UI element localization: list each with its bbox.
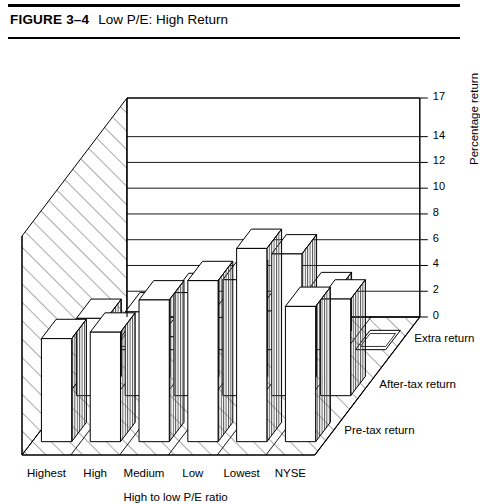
bar	[41, 319, 86, 441]
bar	[90, 313, 135, 442]
chart-scene	[22, 98, 428, 455]
figure-number: FIGURE 3–4	[10, 12, 89, 27]
y-axis-title: Percentage return	[468, 73, 480, 165]
bar	[237, 229, 282, 442]
series-label-extra-return: Extra return	[414, 332, 474, 344]
y-axis-tick-label: 14	[433, 129, 445, 141]
x-axis-title: High to low P/E ratio	[123, 491, 227, 503]
bar	[285, 287, 330, 442]
y-axis-tick-label: 0	[433, 309, 439, 321]
figure-title: Low P/E: High Return	[98, 12, 228, 27]
y-axis-tick-label: 6	[433, 232, 439, 244]
y-axis-tick-label: 2	[433, 283, 439, 295]
category-label-nyse: NYSE	[250, 467, 330, 479]
y-axis-tick-label: 17	[433, 90, 445, 102]
y-axis-tick-label: 10	[433, 180, 445, 192]
chart-plot-area: 0246810121417 Percentage return Pre-tax …	[0, 42, 470, 504]
figure-header: FIGURE 3–4Low P/E: High Return	[0, 0, 470, 42]
bar-face	[351, 280, 366, 396]
bar-face	[188, 281, 218, 442]
header-rule-top	[8, 4, 460, 7]
bar	[188, 261, 233, 441]
y-axis-tick-label: 12	[433, 154, 445, 166]
bar-face	[169, 281, 184, 442]
header-rule-bottom	[8, 37, 460, 39]
bar-face	[72, 319, 87, 441]
bar-face	[218, 261, 233, 441]
bar-face	[41, 339, 71, 442]
bar-face	[139, 300, 169, 442]
y-axis-tick-label: 8	[433, 206, 439, 218]
figure-caption: FIGURE 3–4Low P/E: High Return	[10, 12, 228, 27]
bar-face	[285, 306, 315, 441]
bar-face	[120, 313, 135, 442]
series-label-pre-tax-return: Pre-tax return	[344, 424, 414, 436]
series-label-after-tax-return: After-tax return	[379, 378, 456, 390]
bar-face	[90, 332, 120, 442]
y-axis-tick-label: 4	[433, 257, 439, 269]
bar-face	[237, 248, 267, 441]
bar-face	[316, 287, 331, 442]
bar-face	[267, 229, 282, 442]
bar	[139, 281, 184, 442]
